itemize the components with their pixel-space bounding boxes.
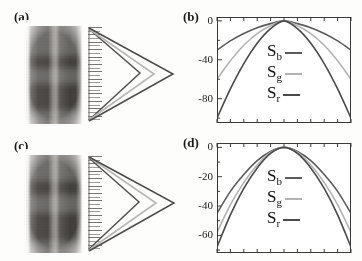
figure-root: (a) (b) 0-40-80 SbSgSr (c) — [0, 0, 362, 261]
panel-d: (d) 0-20-40-60 SbSgSr — [181, 131, 362, 261]
panel-a: (a) — [0, 0, 181, 130]
legend-b: SbSgSr — [267, 42, 302, 105]
legend-symbol-g: Sg — [267, 188, 282, 208]
fan-diagram-c — [0, 131, 181, 261]
panel-c: (c) — [0, 131, 181, 261]
y-tick-marks-b — [217, 21, 222, 118]
legend-entry-b: Sb — [267, 42, 302, 63]
legend-entry-g: Sg — [267, 188, 302, 209]
fan-line-middle-c — [89, 157, 156, 250]
legend-line-swatch-b — [285, 52, 302, 54]
legend-d: SbSgSr — [267, 167, 302, 230]
legend-symbol-r: Sr — [267, 209, 280, 229]
fan-line-middle-a — [89, 29, 154, 120]
fan-diagram-a — [0, 0, 181, 130]
legend-symbol-b: Sb — [267, 167, 282, 187]
legend-symbol-g: Sg — [267, 63, 282, 83]
legend-line-swatch-g — [285, 198, 302, 200]
fan-line-outer-a — [89, 28, 173, 121]
legend-line-swatch-g — [285, 73, 302, 75]
legend-entry-b: Sb — [267, 167, 302, 188]
legend-line-swatch-r — [283, 219, 300, 221]
fan-line-inner-c — [89, 158, 139, 249]
panel-b: (b) 0-40-80 SbSgSr — [181, 0, 362, 130]
legend-symbol-r: Sr — [267, 84, 280, 104]
legend-entry-g: Sg — [267, 63, 302, 84]
legend-line-swatch-b — [285, 177, 302, 179]
legend-line-swatch-r — [283, 94, 300, 96]
legend-symbol-b: Sb — [267, 42, 282, 62]
legend-entry-r: Sr — [267, 209, 302, 230]
legend-entry-r: Sr — [267, 84, 302, 105]
